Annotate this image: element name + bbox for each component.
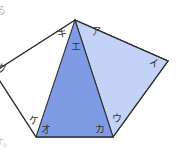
angle-label-i: イ — [149, 59, 159, 69]
angle-label-o: オ — [41, 125, 51, 135]
pentagon-diagram — [0, 0, 187, 153]
angle-label-ke: ケ — [29, 116, 39, 126]
angle-label-e: エ — [71, 42, 81, 52]
angle-label-ka: カ — [95, 125, 105, 135]
angle-label-a: ア — [91, 27, 101, 37]
angle-label-ku: ク — [0, 64, 7, 74]
partial-text-top-left: る — [0, 2, 6, 17]
partial-text-bottom-left: す。 — [0, 134, 13, 149]
angle-label-ki: キ — [57, 29, 67, 39]
angle-label-u: ウ — [112, 114, 122, 124]
